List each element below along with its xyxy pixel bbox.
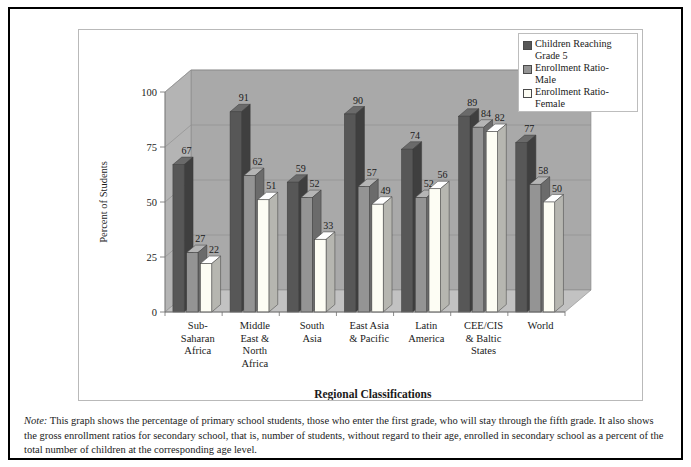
bar-side-face xyxy=(326,232,335,312)
figure-root: 0255075100672722916251595233905749745256… xyxy=(0,0,691,467)
bar xyxy=(372,197,392,312)
x-category-label: CEE/CIS& BalticStates xyxy=(464,320,503,356)
bar-front-face xyxy=(173,165,184,312)
bar-front-face xyxy=(315,239,326,312)
bar-value-label: 57 xyxy=(367,167,377,178)
bar-front-face xyxy=(429,189,440,312)
x-category-label: MiddleEast &NorthAfrica xyxy=(240,320,271,369)
bar-side-face xyxy=(383,197,392,312)
note-label: Note: xyxy=(24,415,47,426)
bar-value-label: 89 xyxy=(467,97,477,108)
bar-front-face xyxy=(187,253,198,312)
bar-front-face xyxy=(415,198,426,312)
bar-front-face xyxy=(459,116,470,312)
bar-value-label: 91 xyxy=(239,92,249,103)
legend-item-2: Enrollment Ratio- Female xyxy=(523,86,634,109)
bar-value-label: 49 xyxy=(380,185,390,196)
right-border-rule xyxy=(681,7,683,460)
y-tick-label: 50 xyxy=(147,197,158,208)
bar-side-face xyxy=(440,181,449,312)
bar-value-label: 58 xyxy=(538,165,548,176)
y-tick-label: 25 xyxy=(147,252,158,263)
chart-legend: Children Reaching Grade 5 Enrollment Rat… xyxy=(518,33,638,112)
bar-front-face xyxy=(543,202,554,312)
bar-front-face xyxy=(530,184,541,312)
legend-swatch-enrollment-ratio-female xyxy=(523,89,532,98)
bar-side-face xyxy=(269,192,278,312)
bar-front-face xyxy=(486,132,497,312)
bar xyxy=(543,195,563,312)
bar-value-label: 56 xyxy=(438,169,448,180)
y-axis-title: Percent of Students xyxy=(98,161,109,243)
y-tick-label: 0 xyxy=(152,307,157,318)
top-border-rule xyxy=(8,7,683,9)
bar-front-face xyxy=(301,198,312,312)
bar-value-label: 59 xyxy=(296,163,306,174)
left-border-rule xyxy=(8,7,10,460)
bar-value-label: 74 xyxy=(410,130,420,141)
bar-value-label: 62 xyxy=(252,156,262,167)
x-category-label: SouthAsia xyxy=(300,320,325,344)
bar-value-label: 77 xyxy=(524,123,534,134)
bar-front-face xyxy=(200,264,211,312)
legend-swatch-children-reaching-grade-5 xyxy=(523,41,532,50)
bar-front-face xyxy=(401,149,412,312)
figure-note: Note: This graph shows the percentage of… xyxy=(24,414,669,458)
x-category-label: World xyxy=(528,320,555,331)
bar xyxy=(429,181,449,312)
bar-value-label: 82 xyxy=(495,112,505,123)
bar-value-label: 33 xyxy=(323,220,333,231)
bar-value-label: 90 xyxy=(353,95,363,106)
bar-value-label: 50 xyxy=(552,183,562,194)
legend-item-1: Enrollment Ratio- Male xyxy=(523,62,634,85)
x-category-label: Sub-SaharanAfrica xyxy=(181,320,216,356)
bar xyxy=(200,256,220,312)
bar-value-label: 27 xyxy=(195,233,205,244)
bar-side-face xyxy=(212,256,221,312)
legend-label-children-reaching-grade-5: Children Reaching Grade 5 xyxy=(535,38,612,61)
x-axis-title: Regional Classifications xyxy=(314,388,432,400)
legend-label-enrollment-ratio-female: Enrollment Ratio- Female xyxy=(535,86,609,109)
legend-item-0: Children Reaching Grade 5 xyxy=(523,38,634,61)
bar-value-label: 52 xyxy=(310,178,320,189)
bar-front-face xyxy=(258,200,269,312)
bar xyxy=(486,124,506,312)
bar-front-face xyxy=(472,127,483,312)
y-tick-label: 100 xyxy=(141,87,157,98)
x-category-label: LatinAmerica xyxy=(408,320,444,344)
bar-front-face xyxy=(372,204,383,312)
bar xyxy=(258,192,278,312)
bottom-border-rule xyxy=(8,458,683,460)
bar-front-face xyxy=(358,187,369,312)
bar-value-label: 22 xyxy=(209,244,219,255)
note-text: This graph shows the percentage of prima… xyxy=(24,415,663,455)
legend-label-enrollment-ratio-male: Enrollment Ratio- Male xyxy=(535,62,609,85)
bar-value-label: 84 xyxy=(481,108,491,119)
bar-value-label: 67 xyxy=(182,145,192,156)
bar-front-face xyxy=(244,176,255,312)
bar-front-face xyxy=(516,143,527,312)
legend-swatch-enrollment-ratio-male xyxy=(523,65,532,74)
bar-front-face xyxy=(344,114,355,312)
bar-front-face xyxy=(287,182,298,312)
bar xyxy=(315,232,335,312)
bar-side-face xyxy=(497,124,506,312)
bar-front-face xyxy=(230,112,241,312)
x-category-label: East Asia& Pacific xyxy=(349,320,389,344)
bar-side-face xyxy=(555,195,564,312)
bar-value-label: 51 xyxy=(266,180,276,191)
y-tick-label: 75 xyxy=(147,142,158,153)
